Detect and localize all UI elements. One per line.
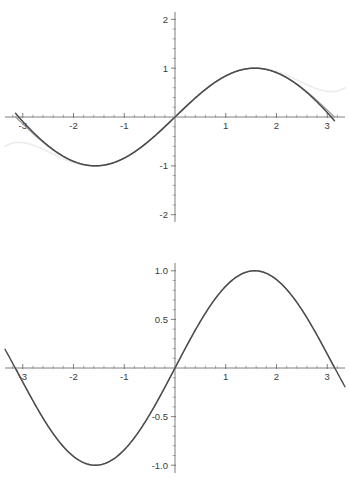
y-axis-tick-label: 1.0 — [155, 265, 168, 276]
y-axis-tick-label: -2 — [160, 209, 168, 220]
taylor-series-figure: -3-2-1123-2-112 -3-2-1123-1.0-0.50.51.0 — [0, 0, 349, 489]
chart-svg-bottom: -3-2-1123-1.0-0.50.51.0 — [0, 240, 349, 489]
x-axis-tick-label: 2 — [274, 120, 279, 131]
x-axis-tick-label: -1 — [120, 371, 128, 382]
y-axis-tick-label: 1 — [163, 63, 168, 74]
x-axis-tick-label: 2 — [274, 371, 279, 382]
y-axis-tick-label: 2 — [163, 14, 168, 25]
y-axis-tick-label: -0.5 — [152, 411, 168, 422]
y-axis-tick-label: -1.0 — [152, 460, 168, 471]
chart-panel-top: -3-2-1123-2-112 — [0, 0, 349, 240]
x-axis-tick-label: 1 — [223, 371, 228, 382]
chart-svg-top: -3-2-1123-2-112 — [0, 0, 349, 240]
y-axis-tick-label: 0.5 — [155, 314, 168, 325]
chart-panel-bottom: -3-2-1123-1.0-0.50.51.0 — [0, 240, 349, 489]
x-axis-tick-label: -2 — [69, 120, 77, 131]
x-axis-tick-label: 3 — [325, 371, 330, 382]
y-axis-tick-label: -1 — [160, 160, 168, 171]
x-axis-tick-label: 3 — [325, 120, 330, 131]
x-axis-tick-label: -1 — [120, 120, 128, 131]
x-axis-tick-label: 1 — [223, 120, 228, 131]
x-axis-tick-label: -2 — [69, 371, 77, 382]
